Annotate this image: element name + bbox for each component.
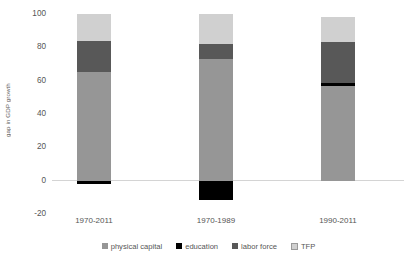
x-axis-category-label: 1970-1989 — [181, 216, 251, 225]
legend-swatch-icon — [232, 243, 238, 249]
bar-segment[interactable] — [199, 59, 233, 181]
bar-segment[interactable] — [321, 17, 355, 42]
bar-segment[interactable] — [199, 14, 233, 44]
y-axis-tick-label: 60 — [37, 76, 46, 85]
legend-item[interactable]: education — [176, 242, 218, 251]
legend-swatch-icon — [291, 243, 298, 250]
bar-segment[interactable] — [199, 181, 233, 200]
bar-segment[interactable] — [77, 72, 111, 180]
y-axis-tick-label: 0 — [41, 176, 46, 185]
y-axis-title: gap in GDP growth — [0, 50, 14, 170]
x-axis-category-labels: 1970-20111970-19891990-2011 — [52, 216, 404, 232]
bar-group[interactable] — [199, 14, 233, 214]
y-axis-tick-label: -20 — [34, 209, 46, 218]
x-axis-category-label: 1970-2011 — [59, 216, 129, 225]
bar-stack — [321, 14, 355, 214]
legend-item[interactable]: labor force — [232, 242, 277, 251]
y-axis-tick-label: 20 — [37, 142, 46, 151]
legend-swatch-icon — [102, 243, 108, 249]
legend-item[interactable]: physical capital — [102, 242, 163, 251]
y-axis-tick-label: 100 — [32, 9, 46, 18]
legend-item-label: education — [185, 242, 218, 251]
bar-segment[interactable] — [199, 44, 233, 59]
y-axis-tick-labels: 100806040200-20 — [14, 0, 52, 215]
x-axis-category-label: 1990-2011 — [303, 216, 373, 225]
y-axis-tick-label: 80 — [37, 42, 46, 51]
bar-segment[interactable] — [321, 83, 355, 86]
legend-item-label: physical capital — [111, 242, 163, 251]
bar-segment[interactable] — [77, 14, 111, 41]
bar-segment[interactable] — [77, 181, 111, 184]
bar-stack — [77, 14, 111, 214]
legend-item[interactable]: TFP — [291, 242, 315, 251]
bar-group[interactable] — [321, 14, 355, 214]
y-axis-tick-label: 40 — [37, 109, 46, 118]
stacked-bar-chart: gap in GDP growth 100806040200-20 1970-2… — [0, 0, 417, 259]
legend-swatch-icon — [176, 243, 182, 249]
legend-item-label: labor force — [241, 242, 277, 251]
legend-item-label: TFP — [301, 242, 315, 251]
chart-legend: physical capitaleducationlabor forceTFP — [0, 238, 417, 254]
bar-segment[interactable] — [321, 42, 355, 84]
plot-area — [52, 14, 404, 214]
bar-segment[interactable] — [77, 41, 111, 73]
bar-segment[interactable] — [321, 86, 355, 181]
bar-group[interactable] — [77, 14, 111, 214]
bar-stack — [199, 14, 233, 214]
